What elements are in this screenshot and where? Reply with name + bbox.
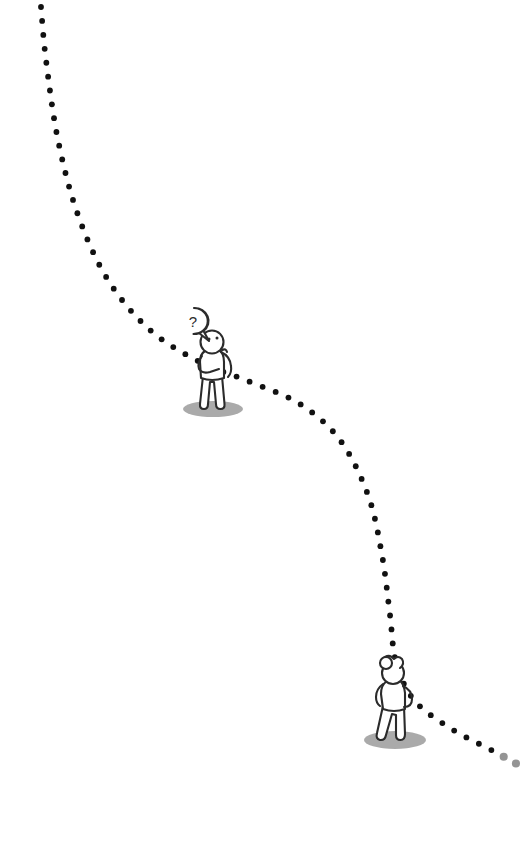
path-dot [70, 197, 76, 203]
path-dot [428, 712, 434, 718]
path-dot [103, 274, 109, 280]
path-dot [39, 18, 45, 24]
path-dot [488, 747, 494, 753]
path-dot [38, 4, 44, 10]
figure-thinking-eye-right [216, 337, 219, 340]
path-dot [90, 249, 96, 255]
path-dot [138, 318, 144, 324]
question-speech-bubble: ? [189, 308, 209, 341]
path-dot [384, 585, 390, 591]
path-dot [43, 60, 49, 66]
path-dot [111, 286, 117, 292]
path-dot [45, 74, 51, 80]
path-dot [96, 262, 102, 268]
figure-hand-on-hip-bun-knot [380, 657, 392, 669]
path-dot [79, 224, 85, 230]
path-dot [476, 741, 482, 747]
path-dot [85, 237, 91, 243]
path-dot [247, 379, 253, 385]
path-dot [378, 543, 384, 549]
path-dot [159, 336, 165, 342]
journey-path-dots [38, 4, 520, 767]
figure-thinking-shadow [183, 401, 243, 417]
path-dot [59, 156, 65, 162]
path-dot [47, 88, 53, 94]
path-dot [382, 571, 388, 577]
path-dot [387, 613, 393, 619]
path-dot [439, 720, 445, 726]
path-dot [372, 516, 378, 522]
path-dot [286, 395, 292, 401]
illustration-canvas: Dotted journey path with two stick figur… [0, 0, 529, 849]
figure-thinking: ? [183, 308, 243, 417]
path-dot [368, 502, 374, 508]
path-dot [234, 374, 240, 380]
path-dot [451, 728, 457, 734]
path-dot [56, 143, 62, 149]
path-dot [54, 129, 60, 135]
path-dot [260, 384, 266, 390]
path-dot [320, 418, 326, 424]
path-dot [390, 640, 396, 646]
path-dot [309, 410, 315, 416]
path-dot [170, 344, 176, 350]
path-dot [182, 351, 188, 357]
path-dot [40, 32, 46, 38]
path-dot [63, 170, 69, 176]
path-dot [148, 328, 154, 334]
path-dot [385, 599, 391, 605]
path-dot [359, 476, 365, 482]
path-dot [74, 210, 80, 216]
path-dot [51, 115, 57, 121]
path-dot [298, 402, 304, 408]
path-dot [346, 451, 352, 457]
path-dot [380, 557, 386, 563]
figure-thinking-hand [222, 349, 227, 352]
scene-svg: ? [0, 0, 529, 849]
path-dot [364, 489, 370, 495]
path-dot [375, 530, 381, 536]
path-dot [464, 734, 470, 740]
path-dot [417, 703, 423, 709]
path-dot [353, 463, 359, 469]
path-dot [389, 627, 395, 633]
path-dot [500, 753, 508, 761]
path-dot [42, 46, 48, 52]
path-dot [339, 439, 345, 445]
speech-bubble-text: ? [189, 313, 197, 330]
path-dot [512, 759, 520, 767]
path-dot [66, 184, 72, 190]
path-dot [49, 101, 55, 107]
path-dot [330, 428, 336, 434]
path-dot [273, 389, 279, 395]
path-dot [128, 308, 134, 314]
path-dot [119, 297, 125, 303]
figure-hand-on-hip [364, 656, 426, 749]
